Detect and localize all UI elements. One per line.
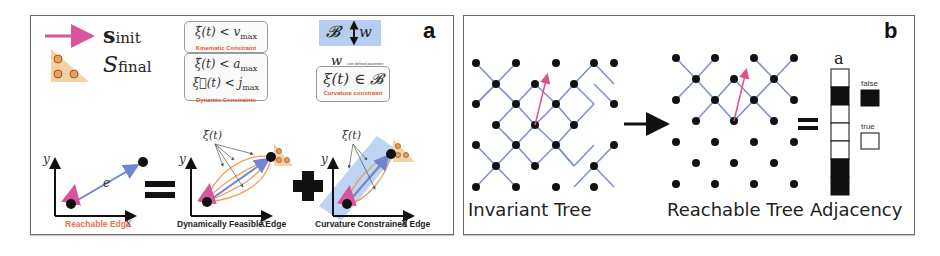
dynamic-label: Dynamic Constraints	[185, 96, 267, 104]
plot2-traj-label: ξ(t)	[203, 129, 222, 142]
plus-operator-icon	[293, 171, 323, 201]
goal-region-icon	[51, 49, 89, 82]
caption-curvature-constrained-edge: Curvature Constrained Edge	[315, 219, 430, 229]
band-symbol: 𝓑	[326, 22, 340, 41]
false-swatch-icon	[861, 90, 879, 106]
caption-invariant-tree: Invariant Tree	[468, 199, 592, 220]
invariant-tree-nodes	[472, 59, 618, 191]
init-subscript: init	[115, 29, 140, 47]
dynamic-sub-jerk: max	[242, 84, 259, 93]
legend-false-label: false	[861, 79, 878, 88]
adjacency-vector	[831, 69, 849, 195]
kinematic-constraint-box: ξ̇(t) < vmax Kinematic Constraint	[184, 21, 268, 53]
equals-operator-icon	[145, 181, 175, 198]
plot-reachable-edge	[55, 157, 148, 216]
plot-dynamically-feasible-edge	[191, 144, 293, 216]
plot1-y-label: y	[43, 152, 50, 166]
adjacency-header: a	[834, 49, 844, 68]
dynamic-constraint-box: ξ̈(t) < amax ξ⃛(t) < jmax Dynamic Constr…	[184, 53, 268, 101]
reachable-tree-diagram	[676, 58, 794, 121]
caption-reachable-edge: Reachable Edge	[65, 219, 131, 229]
true-swatch-icon	[861, 133, 879, 149]
caption-dynamically-feasible-edge: Dynamically Feasible Edge	[177, 219, 286, 229]
plot3-y-label: y	[321, 152, 328, 166]
final-subscript: final	[118, 58, 151, 76]
plot1-edge-label: e	[103, 176, 110, 190]
dynamic-expr-jerk: ξ⃛(t) < j	[193, 76, 242, 90]
plot-curvature-constrained-edge	[319, 136, 415, 221]
kinematic-label: Kinematic Constraint	[185, 44, 267, 52]
legend-true-label: true	[861, 122, 875, 131]
init-symbol: s	[103, 22, 115, 48]
band-width-symbol: w	[359, 23, 372, 41]
dynamic-expr-accel: ξ̈(t) < a	[195, 57, 241, 71]
dynamic-sub-accel: max	[240, 64, 257, 73]
caption-adjacency: Adjacency	[810, 199, 902, 220]
plot3-traj-label: ξ(t)	[342, 129, 361, 142]
panel-b: b	[463, 15, 915, 235]
plot2-y-label: y	[179, 152, 186, 166]
panel-a: a	[30, 15, 454, 235]
curvature-label: Curvature constraint	[317, 89, 389, 97]
init-state-label: sinit	[103, 22, 141, 48]
equals-operator-b-icon	[798, 118, 818, 130]
kinematic-expr: ξ̇(t) < v	[195, 25, 240, 39]
kinematic-sub: max	[240, 32, 257, 41]
final-symbol: S	[103, 52, 118, 77]
caption-reachable-tree: Reachable Tree	[667, 199, 804, 220]
curvature-constraint-box: ξ(t) ∈ 𝓑 Curvature constraint	[316, 66, 390, 102]
final-state-label: Sfinal	[103, 52, 151, 77]
curvature-expr: ξ(t) ∈ 𝓑	[317, 70, 389, 89]
